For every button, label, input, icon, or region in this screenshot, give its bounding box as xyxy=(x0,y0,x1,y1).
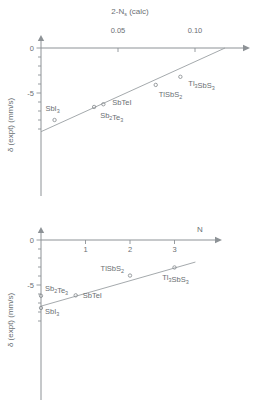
plot-group: 0.050.100-5δ (expt) (mm/s)2-Ns (calc)SbI… xyxy=(6,7,250,196)
x-tick-label: 0.05 xyxy=(111,26,126,35)
y-tick-label: -5 xyxy=(27,89,34,98)
data-point-label: Tl3SbS3 xyxy=(188,79,214,91)
y-axis-arrow xyxy=(38,227,44,233)
plot-group: 1230-5δ (expt) (mm/s)NSbI3Sb2Te3SbTeITlS… xyxy=(6,225,222,400)
y-axis-title: δ (expt) (mm/s) xyxy=(6,293,15,348)
data-point-marker xyxy=(154,83,157,86)
data-point-label: SbI3 xyxy=(45,307,59,317)
y-axis-arrow xyxy=(38,35,44,41)
x-tick-label: 0.10 xyxy=(188,26,203,35)
scatter-plot-top: 0.050.100-5δ (expt) (mm/s)2-Ns (calc)SbI… xyxy=(0,0,262,200)
x-tick-label: 1 xyxy=(83,245,87,254)
data-point-label: SbI3 xyxy=(45,104,59,114)
chart-panel-bottom: 1230-5δ (expt) (mm/s)NSbI3Sb2Te3SbTeITlS… xyxy=(0,195,262,403)
y-tick-label: -5 xyxy=(27,281,34,290)
data-point-label: SbTeI xyxy=(83,291,102,300)
y-tick-label: 0 xyxy=(30,236,34,245)
data-point-label: TlSbS2 xyxy=(159,90,182,100)
y-tick-label: 0 xyxy=(30,44,34,53)
x-axis-arrow xyxy=(243,45,250,51)
scatter-plot-bottom: 1230-5δ (expt) (mm/s)NSbI3Sb2Te3SbTeITlS… xyxy=(0,195,262,403)
data-point-label: Sb2Te3 xyxy=(45,284,68,296)
x-tick-label: 2 xyxy=(128,245,132,254)
x-axis-title: 2-Ns (calc) xyxy=(111,7,149,17)
x-axis-arrow xyxy=(215,237,222,243)
y-axis-title: δ (expt) (mm/s) xyxy=(6,98,15,153)
data-point-label: Tl3SbS3 xyxy=(162,273,188,285)
data-point-label: TlSbS2 xyxy=(101,264,124,274)
trend-line xyxy=(41,48,225,132)
x-axis-title: N xyxy=(197,225,203,234)
data-point-marker xyxy=(128,274,131,277)
chart-panel-top: 0.050.100-5δ (expt) (mm/s)2-Ns (calc)SbI… xyxy=(0,0,262,200)
data-point-label: Sb2Te3 xyxy=(100,111,123,123)
data-point-marker xyxy=(53,118,56,121)
data-point-label: SbTeI xyxy=(112,98,131,107)
x-tick-label: 3 xyxy=(172,245,176,254)
data-point-marker xyxy=(179,75,182,78)
